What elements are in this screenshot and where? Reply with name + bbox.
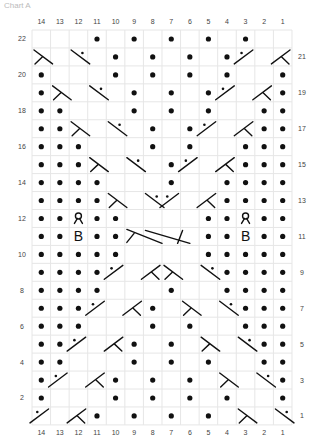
purl-dot-icon — [39, 324, 44, 329]
purl-dot-icon — [280, 198, 285, 203]
purl-dot-icon — [57, 359, 62, 364]
purl-dot-icon — [187, 144, 192, 149]
purl-dot-icon — [39, 108, 44, 113]
column-label-bottom: 10 — [112, 429, 120, 436]
column-label-bottom: 1 — [281, 429, 285, 436]
right-twist-purl-icon — [197, 122, 216, 136]
purl-dot-icon — [39, 270, 44, 275]
purl-dot-icon — [169, 359, 174, 364]
yarn-over-loop-icon — [74, 213, 82, 224]
purl-dot-icon — [169, 288, 174, 293]
purl-dot-icon — [187, 395, 192, 400]
purl-dot-icon — [57, 126, 62, 131]
left-twist-icon — [183, 301, 202, 315]
column-label-bottom: 8 — [151, 429, 155, 436]
purl-dot-icon — [262, 216, 267, 221]
row-label: 5 — [300, 341, 304, 348]
purl-dot-icon — [206, 90, 211, 95]
purl-dot-icon — [262, 162, 267, 167]
purl-dot-icon — [94, 36, 99, 41]
purl-dot-icon — [39, 72, 44, 77]
right-twist-purl-icon — [179, 158, 198, 172]
purl-dot-icon — [206, 36, 211, 41]
purl-dot-icon — [169, 342, 174, 347]
left-twist-purl-icon — [90, 86, 109, 100]
left-twist-icon — [90, 158, 109, 172]
purl-dot-icon — [76, 306, 81, 311]
purl-dot-icon — [243, 306, 248, 311]
purl-dot-icon — [150, 306, 155, 311]
right-twist-purl-icon — [67, 337, 86, 351]
row-label: 22 — [18, 35, 26, 42]
purl-dot-icon — [280, 359, 285, 364]
row-label: 4 — [20, 359, 24, 366]
purl-dot-icon — [262, 126, 267, 131]
purl-dot-icon — [132, 90, 137, 95]
purl-dot-icon — [57, 180, 62, 185]
column-label-top: 12 — [75, 18, 83, 25]
purl-dot-icon — [113, 54, 118, 59]
purl-dot-icon — [224, 395, 229, 400]
column-label-top: 10 — [112, 18, 120, 25]
purl-dot-icon — [39, 288, 44, 293]
left-twist-purl-icon — [71, 50, 90, 64]
row-label: 19 — [298, 89, 306, 96]
column-label-top: 9 — [132, 18, 136, 25]
row-label: 9 — [300, 269, 304, 276]
grid-lines — [32, 30, 292, 425]
left-twist-icon — [201, 337, 220, 351]
purl-dot-icon — [187, 324, 192, 329]
purl-dot-icon — [280, 162, 285, 167]
purl-dot-icon — [94, 252, 99, 257]
purl-dot-icon — [76, 144, 81, 149]
purl-dot-icon — [169, 180, 174, 185]
purl-dot-icon — [76, 252, 81, 257]
right-twist-icon — [197, 194, 216, 208]
purl-dot-icon — [57, 324, 62, 329]
purl-dot-icon — [280, 306, 285, 311]
purl-dot-icon — [280, 252, 285, 257]
column-label-top: 2 — [262, 18, 266, 25]
purl-dot-icon — [224, 198, 229, 203]
purl-dot-icon — [243, 180, 248, 185]
right-twist-purl-icon — [160, 194, 179, 208]
left-twist-purl-icon — [108, 122, 127, 136]
column-label-bottom: 3 — [244, 429, 248, 436]
purl-dot-icon — [169, 36, 174, 41]
row-label: 1 — [300, 412, 304, 419]
purl-dot-icon — [187, 54, 192, 59]
purl-dot-icon — [57, 234, 62, 239]
purl-dot-icon — [206, 234, 211, 239]
yarn-over-loop-icon — [242, 213, 250, 224]
right-twist-purl-icon — [30, 409, 49, 423]
purl-dot-icon — [113, 395, 118, 400]
purl-dot-icon — [76, 198, 81, 203]
column-label-top: 14 — [37, 18, 45, 25]
purl-dot-icon — [243, 198, 248, 203]
purl-dot-icon — [132, 413, 137, 418]
column-label-bottom: 2 — [262, 429, 266, 436]
purl-dot-icon — [262, 288, 267, 293]
purl-dot-icon — [243, 162, 248, 167]
purl-dot-icon — [39, 90, 44, 95]
right-twist-purl-icon — [216, 86, 235, 100]
purl-dot-icon — [243, 144, 248, 149]
purl-dot-icon — [206, 216, 211, 221]
right-twist-purl-icon — [104, 265, 123, 279]
column-label-bottom: 11 — [93, 429, 100, 436]
purl-dot-icon — [262, 180, 267, 185]
right-twist-purl-icon — [234, 50, 253, 64]
purl-dot-icon — [39, 162, 44, 167]
purl-dot-icon — [280, 180, 285, 185]
purl-dot-icon — [280, 108, 285, 113]
purl-dot-icon — [262, 198, 267, 203]
cable-left-icon — [127, 229, 162, 243]
purl-dot-icon — [57, 270, 62, 275]
purl-dot-icon — [57, 108, 62, 113]
purl-dot-icon — [280, 377, 285, 382]
purl-dot-icon — [94, 180, 99, 185]
purl-dot-icon — [76, 324, 81, 329]
purl-dot-icon — [243, 36, 248, 41]
purl-dot-icon — [262, 252, 267, 257]
row-label: 8 — [20, 287, 24, 294]
